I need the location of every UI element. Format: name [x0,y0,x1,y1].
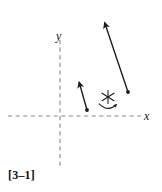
short-vector-arrow [79,82,89,112]
rotation-arc-icon [99,104,116,109]
long-vector-arrow [105,23,130,94]
figure-caption: [3–1] [8,168,35,183]
figure-container: y x [3–1] [0,0,162,192]
x-axis-label: x [144,110,149,122]
y-axis-label: y [56,30,61,42]
vector-diagram [0,0,162,192]
short-vector-tail-dot [85,108,89,112]
star-asterisk-icon [102,91,114,104]
long-vector-tail-dot [126,90,130,94]
